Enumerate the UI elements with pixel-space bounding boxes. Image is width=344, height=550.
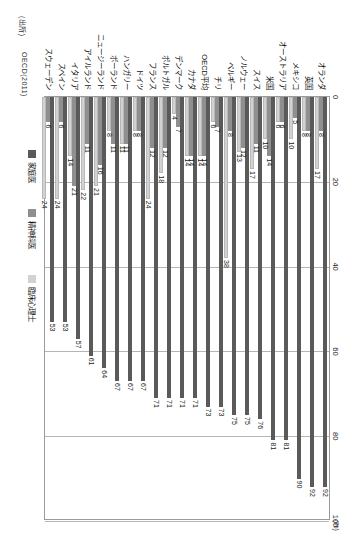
legend-label: 家庭医 — [27, 162, 38, 183]
bar-家庭医 — [89, 97, 93, 356]
x-axis-tick-label: 20 — [331, 178, 340, 186]
gridline — [45, 521, 329, 522]
bar-精神科医 — [176, 97, 180, 127]
bar-家庭医 — [63, 97, 67, 322]
bar-家庭医 — [310, 97, 314, 487]
bar-value-label: 17 — [249, 171, 256, 179]
bar-精神科医 — [124, 97, 128, 144]
x-axis-tick-label: 0 — [331, 95, 340, 99]
bar-臨床心理士 — [42, 97, 46, 199]
legend-item: 精神科医 — [27, 209, 38, 249]
bar-value-label: 92 — [309, 489, 316, 497]
bar-臨床心理士 — [107, 97, 111, 131]
source-label: (出所) — [18, 16, 28, 37]
bar-精神科医 — [72, 97, 76, 186]
plot-area: 0204060801009281792889051081668114107611… — [44, 96, 330, 520]
bar-value-label: 53 — [62, 324, 69, 332]
figure: (出所) OECD(2011) (%) 02040608010092817928… — [0, 0, 344, 550]
bar-value-label: 24 — [54, 201, 61, 209]
bar-臨床心理士 — [250, 97, 254, 169]
bar-精神科医 — [293, 97, 297, 118]
bar-value-label: 71 — [166, 400, 173, 408]
bar-value-label: 67 — [114, 383, 121, 391]
bar-家庭医 — [297, 97, 301, 479]
bar-家庭医 — [102, 97, 106, 368]
bar-value-label: 17 — [314, 171, 321, 179]
bar-value-label: 18 — [158, 175, 165, 183]
bar-value-label: 67 — [140, 383, 147, 391]
source-value: OECD(2011) — [21, 52, 28, 97]
bar-value-label: 67 — [127, 383, 134, 391]
category-label: ドイツ — [136, 0, 147, 90]
category-label: ハンガリー — [123, 0, 134, 90]
bar-value-label: 8 — [106, 133, 113, 137]
bar-value-label: 92 — [322, 489, 329, 497]
bar-臨床心理士 — [159, 97, 163, 173]
bar-value-label: 21 — [93, 188, 100, 196]
bar-value-label: 11 — [110, 146, 117, 153]
bar-臨床心理士 — [198, 97, 202, 156]
bar-value-label: 14 — [266, 158, 273, 166]
bar-value-label: 21 — [71, 188, 78, 196]
bar-value-label: 71 — [179, 400, 186, 408]
bar-value-label: 6 — [210, 124, 217, 128]
bar-value-label: 61 — [88, 358, 95, 366]
bar-臨床心理士 — [68, 97, 72, 156]
bar-家庭医 — [141, 97, 145, 381]
category-label: アイルランド — [84, 0, 95, 90]
bar-value-label: 22 — [80, 192, 87, 200]
bar-臨床心理士 — [146, 97, 150, 199]
category-label: デンマーク — [175, 0, 186, 90]
legend-swatch-icon — [29, 150, 37, 158]
category-label: スイス — [253, 0, 264, 90]
bar-家庭医 — [284, 97, 288, 440]
bar-value-label: 10 — [262, 141, 269, 149]
x-axis-tick-label: 80 — [331, 432, 340, 440]
legend-label: 臨床心理士 — [27, 287, 38, 322]
category-label: ノルウェー — [240, 0, 251, 90]
bar-value-label: 24 — [145, 201, 152, 209]
category-label: オーストラリア — [279, 0, 290, 90]
bar-精神科医 — [215, 97, 219, 127]
chart-page: (出所) OECD(2011) (%) 02040608010092817928… — [0, 0, 344, 550]
bar-value-label: 71 — [153, 400, 160, 408]
bar-臨床心理士 — [172, 97, 176, 114]
bar-臨床心理士 — [237, 97, 241, 152]
bar-value-label: 14 — [197, 158, 204, 166]
bar-精神科医 — [280, 97, 284, 122]
x-axis-tick-label: 60 — [331, 347, 340, 355]
category-label: ニュージーランド — [97, 0, 108, 90]
category-label: ベルギー — [227, 0, 238, 90]
bar-精神科医 — [46, 97, 50, 122]
chart-legend: 家庭医精神科医臨床心理士 — [27, 150, 38, 322]
bar-value-label: 73 — [205, 409, 212, 417]
bar-value-label: 75 — [231, 417, 238, 425]
bar-value-label: 81 — [283, 442, 290, 450]
category-label: ポルトガル — [162, 0, 173, 90]
legend-swatch-icon — [29, 209, 37, 217]
bar-value-label: 24 — [41, 201, 48, 209]
bar-value-label: 14 — [67, 158, 74, 166]
bar-家庭医 — [206, 97, 210, 407]
bar-value-label: 4 — [171, 116, 178, 120]
category-label: スペイン — [58, 0, 69, 90]
bar-家庭医 — [128, 97, 132, 381]
rotated-figure-wrapper: (出所) OECD(2011) (%) 02040608010092817928… — [0, 0, 344, 550]
bar-value-label: 76 — [257, 421, 264, 429]
bar-value-label: 13 — [236, 154, 243, 162]
bar-精神科医 — [189, 97, 193, 156]
bar-value-label: 75 — [244, 417, 251, 425]
bar-value-label: 81 — [270, 442, 277, 450]
bar-臨床心理士 — [120, 97, 124, 144]
x-axis-tick-label: 100 — [331, 515, 340, 528]
bar-臨床心理士 — [289, 97, 293, 139]
bar-臨床心理士 — [276, 97, 280, 122]
bar-家庭医 — [219, 97, 223, 407]
category-label: カナダ — [188, 0, 199, 90]
bar-value-label: 11 — [119, 146, 126, 153]
category-label: ポーランド — [110, 0, 121, 90]
bar-臨床心理士 — [94, 97, 98, 186]
bar-臨床心理士 — [315, 97, 319, 169]
bar-精神科医 — [59, 97, 63, 122]
bar-精神科医 — [241, 97, 245, 148]
